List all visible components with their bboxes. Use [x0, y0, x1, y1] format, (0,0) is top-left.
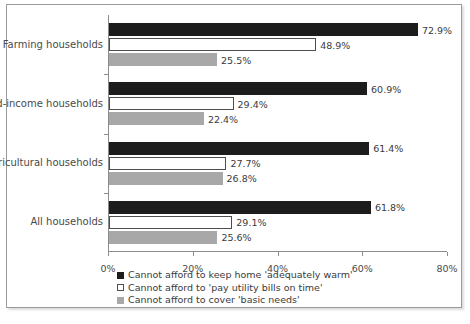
legend-swatch-icon: [117, 297, 124, 304]
legend-swatch-icon: [117, 272, 124, 279]
bar-value-label: 25.5%: [217, 54, 251, 65]
x-axis-tick: [447, 252, 448, 256]
x-axis-tick-label: 80%: [436, 263, 457, 274]
bar-row: 60.9%: [109, 82, 448, 95]
legend-label: Cannot afford to cover 'basic needs': [128, 294, 300, 307]
plot-area: 0%20%40%60%80% Farming households72.9%48…: [108, 15, 447, 252]
bar-value-label: 26.8%: [223, 173, 257, 184]
bar-value-label: 48.9%: [316, 39, 350, 50]
chart-figure: 0%20%40%60%80% Farming households72.9%48…: [6, 4, 462, 308]
y-axis-tick: [104, 193, 108, 194]
bar-value-label: 27.7%: [226, 158, 260, 169]
x-axis-tick: [278, 252, 279, 256]
x-axis-tick: [108, 252, 109, 256]
bar-row: 72.9%: [109, 23, 448, 36]
category-label: Farming households: [0, 39, 103, 51]
bar[interactable]: [109, 23, 418, 36]
bar[interactable]: [109, 172, 223, 185]
legend-label: Cannot afford to 'pay utility bills on t…: [128, 282, 323, 295]
bar[interactable]: [109, 157, 226, 170]
bar[interactable]: [109, 112, 204, 125]
bar[interactable]: [109, 142, 369, 155]
bar-row: 27.7%: [109, 157, 448, 170]
bar[interactable]: [109, 216, 232, 229]
category-label: Non-agricultural households: [0, 157, 103, 169]
legend-item[interactable]: Cannot afford to cover 'basic needs': [117, 294, 353, 307]
bar-value-label: 29.4%: [234, 98, 268, 109]
bar-row: 61.4%: [109, 142, 448, 155]
y-axis-tick: [104, 74, 108, 75]
legend-label: Cannot afford to keep home 'adequately w…: [128, 269, 353, 282]
bar-value-label: 25.6%: [217, 232, 251, 243]
x-axis-tick-label: 0%: [100, 263, 115, 274]
chart-legend: Cannot afford to keep home 'adequately w…: [117, 269, 353, 307]
bar-row: 25.5%: [109, 53, 448, 66]
legend-item[interactable]: Cannot afford to keep home 'adequately w…: [117, 269, 353, 282]
bar[interactable]: [109, 201, 371, 214]
bar-row: 61.8%: [109, 201, 448, 214]
bar[interactable]: [109, 97, 234, 110]
bar[interactable]: [109, 38, 316, 51]
x-axis-tick: [193, 252, 194, 256]
bar[interactable]: [109, 231, 217, 244]
bar-row: 48.9%: [109, 38, 448, 51]
bar-value-label: 61.4%: [369, 143, 403, 154]
bar-row: 22.4%: [109, 112, 448, 125]
bar-value-label: 60.9%: [367, 83, 401, 94]
legend-item[interactable]: Cannot afford to 'pay utility bills on t…: [117, 282, 353, 295]
bar-value-label: 61.8%: [371, 202, 405, 213]
bar[interactable]: [109, 53, 217, 66]
bar[interactable]: [109, 82, 367, 95]
legend-swatch-icon: [117, 284, 124, 291]
bar-row: 26.8%: [109, 172, 448, 185]
bar-value-label: 72.9%: [418, 24, 452, 35]
bar-value-label: 29.1%: [232, 217, 266, 228]
bar-row: 25.6%: [109, 231, 448, 244]
category-label: All households: [0, 216, 103, 228]
bar-row: 29.1%: [109, 216, 448, 229]
category-label: Mixed-income households: [0, 98, 103, 110]
bar-row: 29.4%: [109, 97, 448, 110]
x-axis-tick: [362, 252, 363, 256]
y-axis-tick: [104, 134, 108, 135]
bar-value-label: 22.4%: [204, 113, 238, 124]
x-axis-tick-label: 60%: [352, 263, 373, 274]
